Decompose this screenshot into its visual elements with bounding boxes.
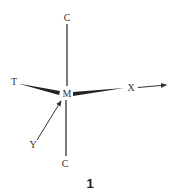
coordination-diagram: C M T X Y C 1 (0, 0, 181, 191)
bond-t-m-wedge (18, 84, 60, 96)
atom-label-m: M (63, 88, 72, 99)
atom-label-c-top: C (64, 12, 71, 23)
bond-y-m-arrow (37, 101, 61, 140)
figure-caption-number: 1 (86, 176, 93, 191)
atom-label-x: X (127, 82, 135, 93)
bond-m-x-wedge (73, 88, 124, 96)
atom-label-t: T (11, 76, 17, 87)
atom-label-y: Y (29, 139, 36, 150)
atom-label-c-bottom: C (62, 158, 69, 169)
x-direction-arrow (138, 85, 166, 88)
